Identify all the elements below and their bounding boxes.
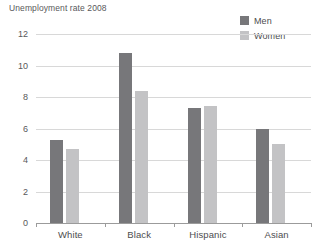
y-axis-tick-label: 4: [0, 155, 28, 165]
bar-group: [105, 34, 174, 223]
bar-asian-men: [256, 129, 269, 224]
x-axis-tick: [174, 223, 175, 227]
plot-area: 024681012: [36, 34, 311, 223]
x-axis-label-black: Black: [105, 229, 174, 240]
bar-group: [36, 34, 105, 223]
y-axis-tick-label: 8: [0, 92, 28, 102]
bar-asian-women: [272, 144, 285, 223]
y-axis-tick-label: 6: [0, 124, 28, 134]
x-axis-tick: [242, 223, 243, 227]
bar-hispanic-men: [188, 108, 201, 223]
y-axis-tick-label: 10: [0, 61, 28, 71]
x-axis-tick: [105, 223, 106, 227]
bar-white-women: [66, 149, 79, 223]
bar-white-men: [50, 140, 63, 223]
x-axis-label-asian: Asian: [242, 229, 311, 240]
bar-hispanic-women: [204, 106, 217, 223]
y-axis-tick-label: 12: [0, 29, 28, 39]
bar-group: [242, 34, 311, 223]
bar-chart: Unemployment rate 2008 Men Women 0246810…: [0, 0, 315, 250]
x-axis-tick: [36, 223, 37, 227]
legend-swatch-men-icon: [240, 16, 249, 25]
y-axis-tick-label: 2: [0, 187, 28, 197]
x-axis-tick: [311, 223, 312, 227]
legend-label-men: Men: [254, 16, 272, 26]
bar-black-men: [119, 53, 132, 223]
x-axis-label-white: White: [36, 229, 105, 240]
legend-item-men: Men: [240, 13, 285, 28]
y-axis-tick-label: 0: [0, 218, 28, 228]
x-axis-label-hispanic: Hispanic: [174, 229, 243, 240]
bar-group: [174, 34, 243, 223]
bar-black-women: [135, 91, 148, 223]
chart-title: Unemployment rate 2008: [9, 3, 107, 14]
